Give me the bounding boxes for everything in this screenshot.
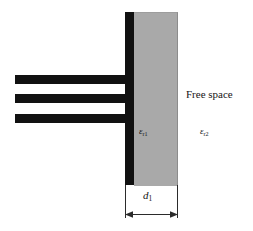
epsilon-r1-symbol: ε	[139, 126, 143, 136]
epsilon-r2-label: εr2	[200, 127, 209, 136]
vertical-conductor-segment-bottom	[125, 123, 134, 185]
diagram-canvas: Free space εr1 εr2 d1	[0, 0, 253, 231]
thickness-label: d1	[143, 190, 152, 201]
epsilon-r2-symbol: ε	[200, 126, 204, 136]
thickness-dimension-arrow	[125, 210, 178, 219]
conductor-strip-3	[15, 114, 134, 123]
epsilon-r1-label: εr1	[139, 127, 148, 136]
free-space-label: Free space	[186, 89, 233, 100]
epsilon-r2-subscript: r2	[204, 131, 209, 137]
conductor-strip-1	[15, 75, 134, 84]
thickness-subscript: 1	[149, 194, 153, 203]
vertical-conductor-segment-top	[125, 12, 134, 76]
thickness-symbol: d	[143, 189, 149, 201]
dielectric-slab-region	[134, 12, 178, 186]
conductor-strip-2	[15, 94, 134, 103]
epsilon-r1-subscript: r1	[143, 131, 148, 137]
